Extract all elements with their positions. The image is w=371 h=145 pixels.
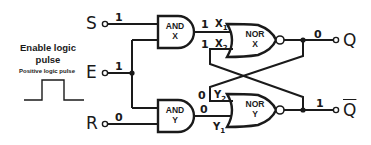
y2-subscript: 2 <box>221 95 226 103</box>
x2-subscript: 2 <box>223 44 228 52</box>
heading-line-2: pulse <box>10 54 86 66</box>
x2-value: 1 <box>201 39 209 50</box>
x1-label: X1 <box>215 19 228 32</box>
qbar-output-label: Q <box>343 102 356 119</box>
r-value: 0 <box>115 112 123 123</box>
nor-x-label: NOR X <box>240 30 270 50</box>
e-value: 1 <box>115 61 123 72</box>
s-input-label: S <box>86 15 97 32</box>
qbar-value: 1 <box>316 98 324 109</box>
and-x-name: X <box>160 32 190 42</box>
and-y-name: Y <box>160 116 190 126</box>
positive-pulse-waveform <box>24 80 84 100</box>
nor-y-bubble <box>276 106 284 114</box>
nor-y-label: NOR Y <box>240 100 270 120</box>
enable-pulse-heading: Enable logic pulse <box>10 42 86 66</box>
y1-subscript: 1 <box>220 127 225 135</box>
qbar-terminal <box>333 107 338 112</box>
x1-value: 1 <box>201 19 209 30</box>
nor-x-name: X <box>240 40 270 50</box>
x1-subscript: 1 <box>223 24 228 32</box>
y1-value: 0 <box>200 104 208 115</box>
q-terminal <box>333 37 338 42</box>
nor-x-bubble <box>276 36 284 44</box>
heading-line-1: Enable logic <box>10 42 86 54</box>
s-value: 1 <box>115 12 123 23</box>
e-junction-dot <box>129 70 134 75</box>
y2-label: Y2 <box>214 90 226 103</box>
y1-label: Y1 <box>213 122 225 135</box>
positive-pulse-caption: Positive logic pulse <box>4 68 90 74</box>
r-input-label: R <box>86 115 98 132</box>
and-y-label: AND Y <box>160 106 190 126</box>
s-terminal <box>102 21 107 26</box>
sr-latch-diagram: S E R 1 1 0 AND X AND Y NOR X NOR Y 1 X1… <box>0 0 371 145</box>
y2-value: 0 <box>198 90 206 101</box>
x2-name: X <box>215 38 223 49</box>
q-value: 0 <box>314 29 322 40</box>
x1-name: X <box>215 18 223 29</box>
r-terminal <box>102 121 107 126</box>
q-output-label: Q <box>343 32 356 49</box>
and-x-label: AND X <box>160 22 190 42</box>
nor-y-name: Y <box>240 110 270 120</box>
e-terminal <box>102 70 107 75</box>
x2-label: X2 <box>215 39 228 52</box>
